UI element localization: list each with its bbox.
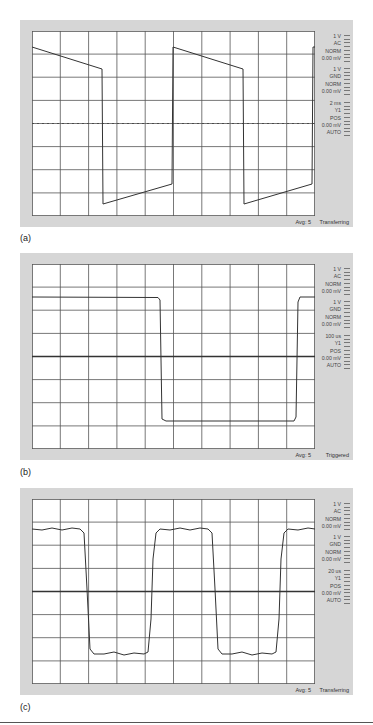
status-bar: Avg: 5 Transferring (20, 685, 353, 695)
waveform-plot (32, 31, 315, 216)
waveform-plot (32, 499, 315, 684)
caption-c: (c) (20, 702, 31, 712)
avg-count: Avg: 5 (296, 217, 312, 227)
timebase-settings[interactable]: 20 usY1POS0.00 mVAUTO (322, 568, 350, 604)
status-bar: Avg: 5 Transferring (20, 217, 353, 227)
ch1-settings[interactable]: 1 VACNORM0.00 mV (322, 33, 350, 62)
settings-sidebar: 1 VACNORM0.00 mV 1 VGNDNORM0.00 mV 2 msY… (316, 31, 353, 216)
avg-count: Avg: 5 (296, 685, 312, 695)
waveform-plot (32, 264, 315, 449)
scope-panel-c: 1 VACNORM0.00 mV 1 VGNDNORM0.00 mV 20 us… (20, 488, 353, 695)
acquisition-state: Transferring (320, 685, 349, 695)
avg-count: Avg: 5 (296, 450, 312, 460)
settings-sidebar: 1 VACNORM0.00 mV 1 VGNDNORM0.00 mV 100 u… (316, 264, 353, 449)
ch2-settings[interactable]: 1 VGNDNORM0.00 mV (322, 66, 350, 95)
scope-screen (32, 264, 315, 449)
acquisition-state: Triggered (326, 450, 349, 460)
bottom-divider (0, 722, 373, 723)
scope-panel-b: 1 VACNORM0.00 mV 1 VGNDNORM0.00 mV 100 u… (20, 253, 353, 460)
caption-a: (a) (20, 233, 31, 243)
ch2-settings[interactable]: 1 VGNDNORM0.00 mV (322, 534, 350, 563)
caption-b: (b) (20, 467, 31, 477)
scope-screen (32, 499, 315, 684)
ch1-settings[interactable]: 1 VACNORM0.00 mV (322, 501, 350, 530)
status-bar: Avg: 5 Triggered (20, 450, 353, 460)
scope-screen (32, 31, 315, 216)
ch1-settings[interactable]: 1 VACNORM0.00 mV (322, 266, 350, 295)
settings-sidebar: 1 VACNORM0.00 mV 1 VGNDNORM0.00 mV 20 us… (316, 499, 353, 684)
timebase-settings[interactable]: 100 usY1POS0.00 mVAUTO (322, 333, 350, 369)
acquisition-state: Transferring (320, 217, 349, 227)
scope-panel-a: 1 VACNORM0.00 mV 1 VGNDNORM0.00 mV 2 msY… (20, 20, 353, 227)
timebase-settings[interactable]: 2 msY1POS0.00 mVAUTO (322, 100, 350, 136)
ch2-settings[interactable]: 1 VGNDNORM0.00 mV (322, 299, 350, 328)
